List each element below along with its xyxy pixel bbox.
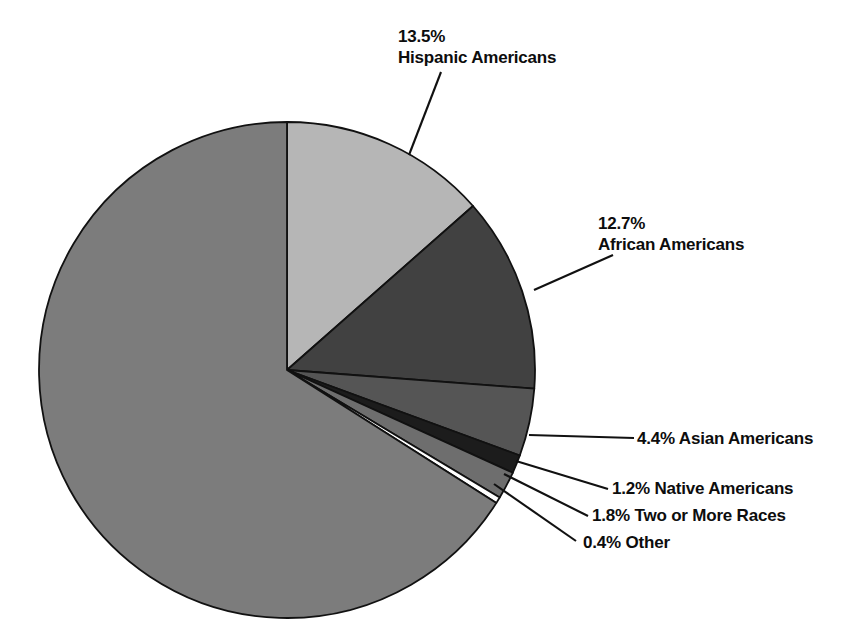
leader-line-african	[534, 255, 613, 290]
slice-group-hispanic-americans: Hispanic Americans	[398, 47, 556, 68]
slice-label-african-americans: 12.7% African Americans	[598, 213, 744, 255]
slice-group-other: Other	[625, 533, 669, 552]
slice-label-two-or-more-races: 1.8% Two or More Races	[592, 505, 786, 526]
slice-percent-native-americans: 1.2%	[612, 479, 650, 498]
leader-line-other	[494, 484, 576, 541]
leader-line-native	[516, 461, 608, 489]
slice-group-asian-americans: Asian Americans	[679, 429, 813, 448]
leader-line-twomore	[504, 474, 588, 516]
slice-label-other: 0.4% Other	[583, 532, 670, 553]
slice-percent-asian-americans: 4.4%	[637, 429, 675, 448]
slice-group-african-americans: African Americans	[598, 234, 744, 255]
slice-label-asian-americans: 4.4% Asian Americans	[637, 428, 813, 449]
pie-chart-page: 13.5% Hispanic Americans 12.7% African A…	[0, 0, 841, 636]
slice-label-native-americans: 1.2% Native Americans	[612, 478, 793, 499]
leader-line-hispanic	[409, 72, 441, 155]
pie-chart-figure	[0, 0, 841, 636]
slice-percent-hispanic-americans: 13.5%	[398, 26, 556, 47]
slice-group-native-americans: Native Americans	[654, 479, 793, 498]
slice-group-two-or-more-races: Two or More Races	[634, 506, 785, 525]
slice-percent-african-americans: 12.7%	[598, 213, 744, 234]
slice-percent-other: 0.4%	[583, 533, 621, 552]
slice-percent-two-or-more-races: 1.8%	[592, 506, 630, 525]
pie-slices-group	[39, 122, 535, 618]
slice-label-hispanic-americans: 13.5% Hispanic Americans	[398, 26, 556, 68]
leader-line-asian	[529, 435, 634, 438]
